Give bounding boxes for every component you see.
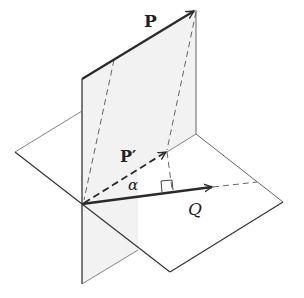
vertical-plane [82, 10, 196, 284]
label-q: Q [188, 199, 202, 219]
diagram-canvas: P P′ α Q [0, 0, 304, 298]
label-p-prime: P′ [120, 147, 136, 166]
projection-diagram: P P′ α Q [0, 0, 304, 298]
label-alpha: α [128, 176, 138, 194]
label-p: P [144, 11, 157, 31]
